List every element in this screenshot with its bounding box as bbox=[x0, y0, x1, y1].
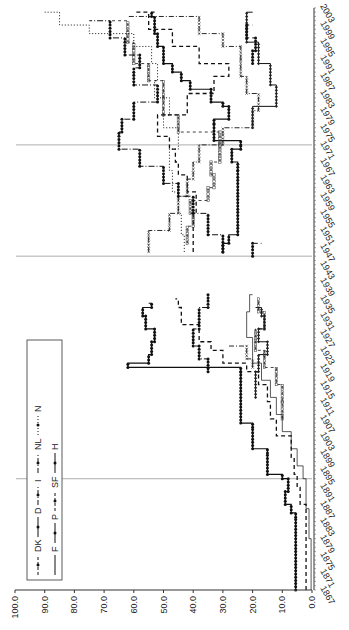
legend-label: NL bbox=[33, 438, 43, 450]
series-h bbox=[245, 24, 261, 258]
legend-label: F bbox=[50, 546, 60, 552]
legend-label: H bbox=[50, 444, 60, 451]
rotated-line-chart: 0.010.020.030.040.050.060.070.080.090.01… bbox=[0, 0, 349, 630]
series-f bbox=[247, 295, 311, 590]
value-tick-label: 40.0 bbox=[188, 596, 198, 614]
value-tick-label: 80.0 bbox=[69, 596, 79, 614]
series-sf bbox=[110, 21, 283, 420]
value-tick-label: 30.0 bbox=[218, 596, 228, 614]
legend-label: N bbox=[33, 406, 43, 413]
year-tick-label: 2003 bbox=[318, 2, 337, 24]
legend-label: SF bbox=[50, 476, 60, 488]
value-tick-label: 60.0 bbox=[129, 596, 139, 614]
legend: DKDINLNFPSFH bbox=[27, 340, 62, 580]
series-p bbox=[245, 12, 278, 399]
value-axis: 0.010.020.030.040.050.060.070.080.090.01… bbox=[10, 590, 317, 619]
legend-label: I bbox=[33, 479, 43, 482]
value-tick-label: 70.0 bbox=[99, 596, 109, 614]
value-tick-label: 90.0 bbox=[40, 596, 50, 614]
value-tick-label: 10.0 bbox=[277, 596, 287, 614]
series-d bbox=[126, 12, 297, 592]
value-tick-label: 100.0 bbox=[10, 596, 20, 619]
value-tick-label: 20.0 bbox=[248, 596, 258, 614]
legend-label: P bbox=[50, 514, 60, 520]
legend-label: DK bbox=[33, 539, 43, 552]
value-tick-label: 0.0 bbox=[307, 596, 317, 609]
series-layer bbox=[45, 12, 311, 592]
value-tick-label: 50.0 bbox=[159, 596, 169, 614]
series-nl bbox=[89, 20, 224, 373]
year-axis: 1867187118751879188318871891189518991903… bbox=[314, 2, 337, 606]
series-dk bbox=[134, 12, 306, 590]
legend-label: D bbox=[33, 507, 43, 514]
